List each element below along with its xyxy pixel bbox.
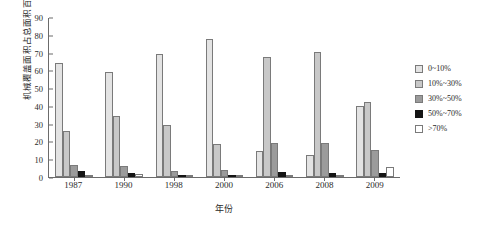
x-axis-labels: 1987199019982000200620082009 <box>48 180 400 196</box>
x-axis-tick-label: 1990 <box>98 180 148 196</box>
bar <box>286 175 294 177</box>
bar <box>306 155 314 177</box>
bar <box>55 63 63 177</box>
bar <box>371 150 379 177</box>
bar <box>321 143 329 177</box>
bar <box>113 116 121 177</box>
bar-group <box>156 18 194 177</box>
y-axis-tick-label: 90 <box>0 14 49 23</box>
bar <box>263 57 271 177</box>
legend-label: >70% <box>428 124 447 133</box>
legend-label: 50%~70% <box>428 109 462 118</box>
bar <box>364 102 372 177</box>
legend-label: 10%~30% <box>428 79 462 88</box>
bar <box>70 165 78 177</box>
bar-groups <box>49 18 400 177</box>
y-axis-tick-label: 0 <box>0 174 49 183</box>
legend-swatch <box>415 65 423 73</box>
y-axis-tick-label: 70 <box>0 49 49 58</box>
legend-swatch <box>415 110 423 118</box>
bar <box>63 131 71 177</box>
y-axis-tick-mark <box>49 178 53 179</box>
bar <box>178 175 186 177</box>
bar <box>213 144 221 177</box>
bar <box>156 54 164 177</box>
legend-swatch <box>415 95 423 103</box>
x-axis-tick-label: 2009 <box>350 180 400 196</box>
y-axis-tick-label: 50 <box>0 85 49 94</box>
legend-swatch <box>415 80 423 88</box>
bar <box>120 166 128 177</box>
bar <box>221 170 229 177</box>
bar <box>379 173 387 177</box>
plot-area: 0102030405060708090 <box>48 18 400 178</box>
legend-item: 10%~30% <box>415 76 489 91</box>
bar <box>356 106 364 177</box>
bar <box>314 52 322 177</box>
x-axis-tick-label: 1998 <box>149 180 199 196</box>
bar <box>228 175 236 177</box>
bar <box>256 151 264 177</box>
legend-item: >70% <box>415 121 489 136</box>
bar-chart: 机械覆盖面积占总面积百分比(%) 0102030405060708090 198… <box>0 0 489 240</box>
bar <box>78 171 86 177</box>
y-axis-tick-label: 10 <box>0 156 49 165</box>
y-axis-tick-label: 30 <box>0 120 49 129</box>
y-axis-tick-label: 40 <box>0 103 49 112</box>
x-axis-title: 年份 <box>48 202 400 215</box>
bar-group <box>206 18 244 177</box>
bar-group <box>356 18 394 177</box>
bar <box>128 173 136 177</box>
bar-group <box>306 18 344 177</box>
legend-item: 50%~70% <box>415 106 489 121</box>
legend-item: 30%~50% <box>415 91 489 106</box>
x-axis-tick-label: 2000 <box>199 180 249 196</box>
bar-group <box>256 18 294 177</box>
legend-label: 30%~50% <box>428 94 462 103</box>
bar <box>236 175 244 177</box>
legend-label: 0~10% <box>428 64 451 73</box>
bar <box>135 174 143 177</box>
bar <box>186 175 194 177</box>
bar <box>85 175 93 177</box>
bar <box>336 175 344 177</box>
bar <box>271 143 279 177</box>
y-axis-tick-label: 60 <box>0 67 49 76</box>
y-axis-tick-label: 80 <box>0 32 49 41</box>
x-axis-tick-label: 2006 <box>249 180 299 196</box>
y-axis-tick-label: 20 <box>0 138 49 147</box>
bar <box>386 167 394 177</box>
bar <box>105 72 113 177</box>
chart-legend: 0~10%10%~30%30%~50%50%~70%>70% <box>415 61 489 136</box>
bar <box>163 125 171 177</box>
bar <box>329 173 337 177</box>
bar <box>278 172 286 177</box>
x-axis-tick-label: 2008 <box>300 180 350 196</box>
y-axis-title-wrapper: 机械覆盖面积占总面积百分比(%) <box>0 0 24 200</box>
bar-group <box>55 18 93 177</box>
legend-swatch <box>415 125 423 133</box>
x-axis-tick-label: 1987 <box>48 180 98 196</box>
legend-item: 0~10% <box>415 61 489 76</box>
bar <box>206 39 214 177</box>
bar-group <box>105 18 143 177</box>
